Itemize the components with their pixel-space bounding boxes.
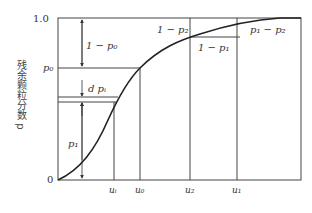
x-tick-u1: u₁ (232, 185, 241, 195)
label-1-minus-p1: 1 − p₁ (198, 42, 230, 53)
label-p1: p₁ (68, 138, 78, 149)
y-tick-0: 0 (47, 174, 53, 185)
x-tick-u2: u₂ (185, 185, 195, 195)
x-tick-u0: u₀ (135, 185, 145, 195)
x-tick-ui: uᵢ (109, 185, 117, 195)
label-p1-minus-p2: p₁ − p₂ (250, 24, 286, 35)
y-tick-p0: p₀ (43, 62, 53, 73)
y-tick-1: 1.0 (33, 13, 49, 24)
label-dpi: d pᵢ (88, 83, 106, 94)
diagram-canvas: 1.0 p₀ 0 uᵢ u₀ u₂ u₁ 1 − p₀ d pᵢ p₁ 1 − … (0, 0, 312, 213)
label-1-minus-p2: 1 − p₂ (157, 24, 189, 35)
label-1-minus-p0: 1 − p₀ (86, 40, 118, 51)
